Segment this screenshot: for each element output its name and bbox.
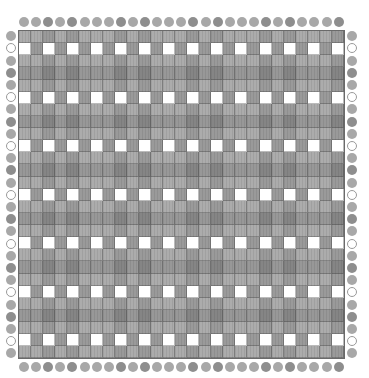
row-thread-bead-left (6, 239, 16, 249)
weave-cell (91, 322, 103, 334)
weave-cell (296, 346, 308, 358)
weave-cell (19, 55, 31, 67)
weave-cell (296, 177, 308, 189)
column-thread-bead-top (322, 17, 332, 27)
weave-cell (272, 213, 284, 225)
row-thread-bead-right (347, 202, 357, 212)
weave-cell (211, 322, 223, 334)
weave-cell (175, 128, 187, 140)
weave-cell (260, 67, 272, 79)
weave-cell (67, 67, 79, 79)
weave-cell (91, 286, 103, 298)
weave-cell (91, 261, 103, 273)
weave-cell (247, 334, 259, 346)
weave-cell (320, 104, 332, 116)
weave-cell (260, 322, 272, 334)
weave-cell (151, 201, 163, 213)
weave-cell (223, 201, 235, 213)
weave-cell (43, 140, 55, 152)
weave-cell (139, 177, 151, 189)
weave-cell (67, 322, 79, 334)
weave-cell (91, 177, 103, 189)
weave-cell (127, 261, 139, 273)
row-thread-bead-right (347, 239, 357, 249)
row-thread-bead-left (6, 104, 16, 114)
weave-cell (332, 116, 344, 128)
weave-cell (19, 31, 31, 43)
weave-cell (296, 31, 308, 43)
weave-cell (235, 322, 247, 334)
weave-cell (91, 43, 103, 55)
weave-cell (247, 55, 259, 67)
weave-cell (187, 177, 199, 189)
weave-cell (31, 189, 43, 201)
weave-cell (284, 213, 296, 225)
weave-cell (55, 286, 67, 298)
weave-cell (139, 201, 151, 213)
weave-cell (296, 274, 308, 286)
weave-cell (31, 346, 43, 358)
weave-cell (151, 189, 163, 201)
weave-cell (151, 177, 163, 189)
weave-cell (223, 43, 235, 55)
weave-cell (211, 177, 223, 189)
weave-cell (139, 92, 151, 104)
weave-cell (151, 116, 163, 128)
weave-cell (175, 140, 187, 152)
weave-cell (320, 164, 332, 176)
row-thread-bead-right (347, 104, 357, 114)
weave-cell (332, 31, 344, 43)
weave-cell (320, 346, 332, 358)
weave-cell (67, 201, 79, 213)
weave-cell (91, 55, 103, 67)
weave-cell (199, 225, 211, 237)
weave-cell (31, 334, 43, 346)
weave-cell (187, 104, 199, 116)
weave-cell (31, 274, 43, 286)
weave-cell (272, 164, 284, 176)
weave-cell (43, 249, 55, 261)
weave-cell (332, 80, 344, 92)
weave-cell (31, 298, 43, 310)
weave-cell (284, 334, 296, 346)
weave-cell (79, 249, 91, 261)
column-thread-bead-top (176, 17, 186, 27)
weave-cell (247, 189, 259, 201)
weave-cell (308, 55, 320, 67)
weave-cell (115, 31, 127, 43)
weave-cell (260, 116, 272, 128)
weave-cell (272, 274, 284, 286)
weave-cell (151, 298, 163, 310)
weave-cell (55, 201, 67, 213)
weave-cell (67, 92, 79, 104)
weave-cell (332, 298, 344, 310)
weave-cell (55, 249, 67, 261)
weave-cell (175, 189, 187, 201)
weave-cell (235, 177, 247, 189)
weave-cell (211, 67, 223, 79)
weave-cell (211, 31, 223, 43)
weave-cell (284, 237, 296, 249)
weave-cell (43, 43, 55, 55)
weave-cell (115, 261, 127, 273)
weave-cell (79, 225, 91, 237)
weave-cell (55, 43, 67, 55)
weave-cell (308, 104, 320, 116)
weave-cell (103, 104, 115, 116)
weave-cell (296, 261, 308, 273)
weave-cell (139, 140, 151, 152)
weave-cell (139, 128, 151, 140)
weave-cell (308, 152, 320, 164)
weave-cell (127, 140, 139, 152)
weave-cell (235, 152, 247, 164)
row-thread-bead-left (6, 129, 16, 139)
weave-cell (308, 164, 320, 176)
weave-cell (43, 213, 55, 225)
weave-cell (127, 286, 139, 298)
weave-cell (187, 310, 199, 322)
row-thread-bead-left (6, 165, 16, 175)
weave-cell (211, 237, 223, 249)
weave-cell (43, 152, 55, 164)
weave-cell (163, 274, 175, 286)
weave-cell (260, 310, 272, 322)
